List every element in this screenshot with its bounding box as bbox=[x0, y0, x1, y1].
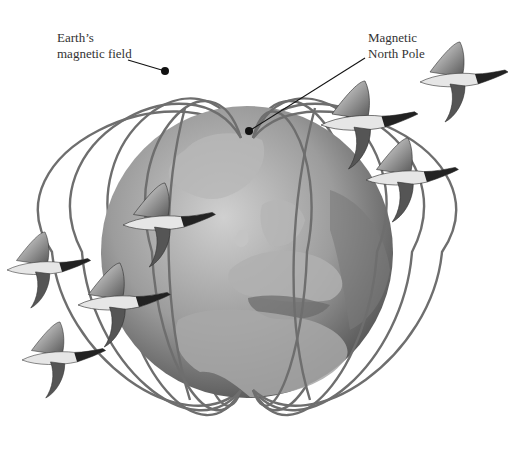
magnetic-field-dot bbox=[161, 67, 169, 75]
north-pole-dot bbox=[245, 127, 253, 135]
magnetic-field-leader-line bbox=[128, 60, 165, 71]
north-pole-label: Magnetic North Pole bbox=[368, 30, 425, 62]
globe bbox=[101, 106, 393, 398]
goose bbox=[22, 322, 106, 398]
goose bbox=[420, 42, 508, 122]
magnetic-field-label-line1: Earth’s bbox=[57, 30, 132, 46]
magnetic-field-label: Earth’s magnetic field bbox=[57, 30, 132, 62]
north-pole-label-line2: North Pole bbox=[368, 46, 425, 62]
magnetic-field-illustration bbox=[0, 0, 529, 470]
magnetic-field-label-line2: magnetic field bbox=[57, 46, 132, 62]
north-pole-label-line1: Magnetic bbox=[368, 30, 425, 46]
